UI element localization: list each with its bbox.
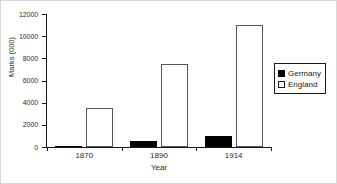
x-axis-line [46,147,272,148]
y-axis-tick-label: 6000 [0,77,38,84]
y-axis-tick [42,58,46,59]
bar-england-1890 [161,64,188,147]
y-axis-title: Marks (000) [8,22,16,92]
y-axis-tick-label: 8000 [0,55,38,62]
y-axis-tick [42,14,46,15]
y-axis-tick [42,81,46,82]
bar-england-1870 [86,108,113,147]
y-axis-tick-label: 0 [0,144,38,151]
plot-area [47,14,271,147]
y-axis-tick [42,125,46,126]
x-axis-tick-label-1890: 1890 [129,151,189,160]
y-axis-tick-label: 10000 [0,33,38,40]
x-axis-separator [122,147,123,151]
legend-item-england: England [278,79,321,89]
legend-swatch-england-icon [278,81,285,88]
chart-figure: 020004000600080001000012000 Marks (000) … [0,0,337,184]
chart-legend: GermanyEngland [274,63,326,94]
y-axis-tick [42,103,46,104]
bar-england-1914 [236,25,263,147]
bar-germany-1914 [205,136,232,147]
legend-label: England [288,80,317,89]
y-axis-tick-label: 12000 [0,11,38,18]
y-axis-tick [42,36,46,37]
y-axis-tick-label: 4000 [0,99,38,106]
legend-swatch-germany-icon [278,70,285,77]
y-axis-tick-label: 2000 [0,121,38,128]
x-axis-title: Year [47,163,271,172]
x-axis-separator [47,147,48,151]
x-axis-separator [196,147,197,151]
x-axis-tick-label-1914: 1914 [204,151,264,160]
legend-label: Germany [288,69,321,78]
legend-item-germany: Germany [278,68,321,78]
x-axis-tick-label-1870: 1870 [54,151,114,160]
x-axis-separator [271,147,272,151]
